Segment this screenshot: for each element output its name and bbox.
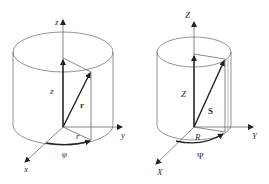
psi-label: Ψ: [197, 151, 204, 161]
r-vector-label: r: [80, 100, 84, 110]
phi-label: φ: [62, 149, 67, 159]
S-vector-label: S: [208, 106, 213, 116]
top-radial-line: [194, 54, 225, 59]
z-axis-label: z: [54, 17, 59, 27]
x-axis-label: x: [23, 164, 28, 174]
R-label: R: [194, 132, 201, 142]
left-diagram: z z r r φ x y: [13, 17, 125, 174]
Y-axis-label: Y: [252, 131, 258, 141]
z-height-label: z: [49, 86, 54, 96]
Z-axis-label: Z: [185, 10, 191, 20]
X-axis-label: X: [156, 167, 163, 177]
right-diagram: Z Z S R Ψ X Y: [156, 10, 258, 177]
top-radial-line: [63, 58, 91, 72]
radius-label: r: [76, 131, 80, 141]
y-axis-label: y: [120, 130, 125, 140]
r-vector: [63, 73, 90, 127]
S-vector: [194, 61, 224, 127]
figure-canvas: z z r r φ x y Z Z S R Ψ X Y: [0, 0, 269, 184]
phi-arc: [46, 141, 90, 145]
Z-height-label: Z: [181, 89, 187, 99]
